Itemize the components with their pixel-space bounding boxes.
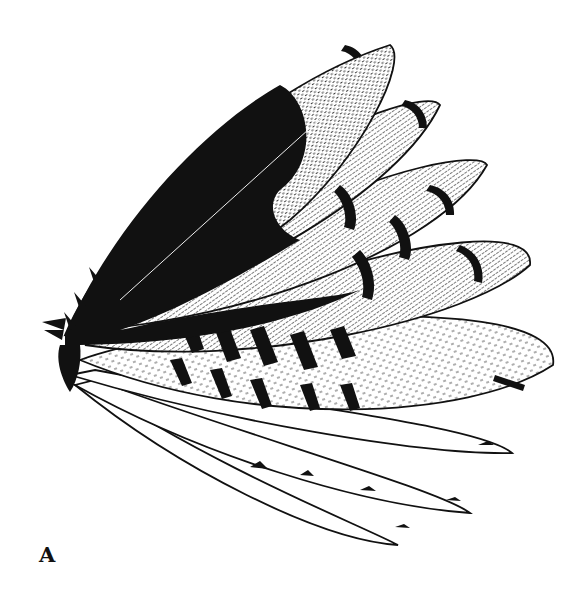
wing-illustration — [0, 0, 583, 606]
panel-label: A — [39, 542, 55, 567]
